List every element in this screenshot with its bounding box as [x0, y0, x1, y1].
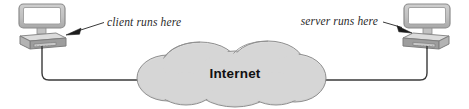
monitor-screen [24, 8, 61, 25]
network-diagram: Internet [0, 0, 469, 109]
monitor [19, 4, 65, 28]
internet-cloud-label: Internet [209, 66, 260, 81]
client-computer [19, 4, 66, 49]
client-to-internet-link [42, 48, 152, 80]
server-to-internet-link [310, 48, 427, 80]
monitor-screen [409, 8, 446, 25]
computer-case [20, 33, 66, 49]
server-computer [403, 4, 450, 49]
monitor [404, 4, 450, 28]
client-annotation: client runs here [66, 16, 181, 35]
client-arrowhead-icon [66, 28, 81, 35]
server-annotation: server runs here [301, 15, 412, 33]
computer-case [403, 33, 449, 49]
server-annotation-label: server runs here [301, 15, 378, 27]
internet-cloud: Internet [137, 41, 326, 107]
client-annotation-label: client runs here [107, 16, 181, 28]
diagram-canvas: Internet [0, 0, 469, 109]
